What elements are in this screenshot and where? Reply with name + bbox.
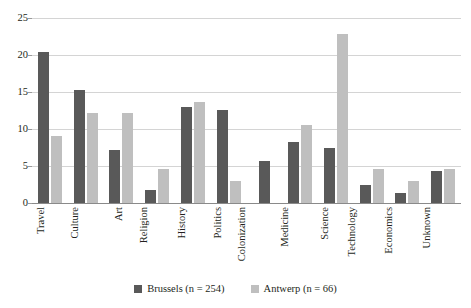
bar	[431, 171, 442, 203]
x-axis-tick-label: Science	[320, 207, 331, 240]
bar-group	[390, 18, 426, 203]
x-axis-tick-label: Colonization	[237, 207, 248, 261]
bar-chart: 0510152025 TravelCultureArtReligionHisto…	[0, 0, 471, 308]
bar-group	[175, 18, 211, 203]
x-axis-label-cell: Economics	[390, 205, 426, 277]
bar	[324, 148, 335, 204]
bar-group	[425, 18, 461, 203]
x-axis-tick-label: History	[177, 207, 188, 239]
bar-group	[104, 18, 140, 203]
bar	[395, 193, 406, 203]
bar	[408, 181, 419, 203]
x-axis-label-cell: Religion	[139, 205, 175, 277]
x-axis-tick-label: Art	[114, 207, 125, 221]
y-axis-tick-label: 20	[4, 50, 28, 61]
bar	[158, 169, 169, 203]
legend-label: Antwerp (n = 66)	[264, 284, 337, 295]
bar	[51, 136, 62, 203]
bar-group	[32, 18, 68, 203]
x-axis-tick-label: Travel	[36, 207, 47, 234]
bar	[109, 150, 120, 203]
bar-group	[247, 18, 283, 203]
legend-item: Antwerp (n = 66)	[251, 284, 337, 295]
chart-legend: Brussels (n = 254)Antwerp (n = 66)	[0, 284, 471, 295]
x-axis-tick-label: Religion	[139, 207, 150, 243]
y-axis: 0510152025	[0, 18, 28, 203]
bar	[301, 125, 312, 203]
y-axis-tick-label: 0	[4, 198, 28, 209]
bar	[181, 107, 192, 203]
x-axis-label-cell: History	[175, 205, 211, 277]
legend-item: Brussels (n = 254)	[134, 284, 224, 295]
x-axis-tick-label: Unknown	[422, 207, 433, 248]
bar	[360, 185, 371, 203]
y-axis-tick-label: 5	[4, 161, 28, 172]
bar-group	[211, 18, 247, 203]
axis-baseline	[32, 203, 461, 204]
bar	[217, 110, 228, 203]
bar	[444, 169, 455, 203]
x-axis-tick-label: Culture	[70, 207, 81, 239]
x-axis-label-cell: Travel	[32, 205, 68, 277]
bar-group	[68, 18, 104, 203]
bar	[87, 113, 98, 203]
x-axis-label-cell: Colonization	[247, 205, 283, 277]
y-axis-tick-label: 15	[4, 87, 28, 98]
x-axis-labels: TravelCultureArtReligionHistoryPoliticsC…	[32, 205, 461, 277]
x-axis-label-cell: Art	[104, 205, 140, 277]
bar	[288, 142, 299, 203]
bar-group	[354, 18, 390, 203]
bar	[259, 161, 270, 203]
y-axis-tick-label: 10	[4, 124, 28, 135]
bar	[38, 52, 49, 203]
bar	[74, 90, 85, 203]
bar	[145, 190, 156, 203]
bars-layer	[32, 18, 461, 203]
bar	[337, 34, 348, 203]
x-axis-tick-label: Economics	[384, 207, 395, 254]
y-axis-tick-label: 25	[4, 13, 28, 24]
x-axis-tick-label: Technology	[347, 207, 358, 256]
x-axis-label-cell: Unknown	[425, 205, 461, 277]
bar	[373, 169, 384, 203]
bar-group	[139, 18, 175, 203]
legend-swatch-icon	[251, 285, 259, 293]
x-axis-label-cell: Medicine	[282, 205, 318, 277]
bar-group	[282, 18, 318, 203]
legend-swatch-icon	[134, 285, 142, 293]
legend-label: Brussels (n = 254)	[147, 284, 224, 295]
x-axis-tick-label: Politics	[213, 207, 224, 239]
x-axis-tick-label: Medicine	[280, 207, 291, 247]
x-axis-label-cell: Culture	[68, 205, 104, 277]
bar	[194, 102, 205, 203]
bar	[122, 113, 133, 203]
bar-group	[318, 18, 354, 203]
bar	[230, 181, 241, 203]
